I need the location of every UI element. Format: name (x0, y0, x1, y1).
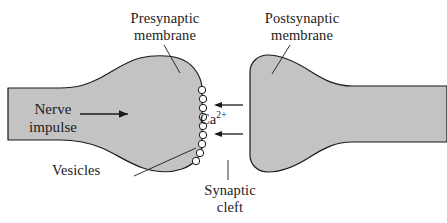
synapse-diagram: Presynaptic membrane Postsynaptic membra… (0, 0, 447, 223)
label-postsynaptic-membrane: Postsynaptic membrane (237, 10, 367, 43)
label-synaptic-cleft: Synaptic cleft (186, 182, 274, 215)
postsynaptic-neuron-body (250, 55, 447, 172)
calcium-symbol: Ca (200, 111, 216, 127)
calcium-arrow-lower (214, 131, 243, 137)
vesicle (199, 131, 206, 138)
vesicle (198, 140, 205, 147)
vesicle (199, 95, 206, 102)
vesicle (196, 149, 203, 156)
label-vesicles: Vesicles (52, 162, 132, 179)
calcium-charge: 2+ (216, 110, 226, 120)
vesicle (198, 86, 205, 93)
vesicle (192, 157, 199, 164)
label-nerve-impulse: Nerve impulse (18, 101, 88, 136)
label-presynaptic-membrane: Presynaptic membrane (104, 10, 226, 43)
label-calcium-ion: Ca2+ (200, 111, 254, 128)
calcium-arrow-upper (214, 102, 243, 108)
